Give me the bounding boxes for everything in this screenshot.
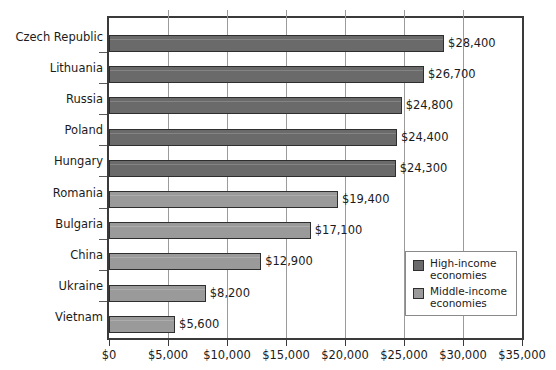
category-label-lithuania: Lithuania xyxy=(0,59,103,77)
category-label-czech-republic: Czech Republic xyxy=(0,28,103,46)
bar-highlight xyxy=(110,320,174,321)
x-axis-label: $35,000 xyxy=(498,348,546,362)
bar-highlight xyxy=(110,195,337,196)
bar-value-label: $8,200 xyxy=(210,284,250,302)
plot-area: $28,400$26,700$24,800$24,400$24,300$19,4… xyxy=(107,16,524,340)
category-label-bulgaria: Bulgaria xyxy=(0,215,103,233)
legend-swatch-middle-income-icon xyxy=(413,288,424,299)
bar-row: $24,400 xyxy=(109,122,522,154)
category-tick xyxy=(99,208,107,209)
category-tick xyxy=(99,114,107,115)
bar-russia xyxy=(109,97,402,114)
category-label-china: China xyxy=(0,246,103,264)
bar-value-label: $24,400 xyxy=(401,128,449,146)
x-axis-label: $25,000 xyxy=(380,348,428,362)
x-axis-tick xyxy=(463,340,464,346)
bar-row: $26,700 xyxy=(109,59,522,91)
bar-value-label: $19,400 xyxy=(342,190,390,208)
legend-label-high-income-line1: High-income xyxy=(430,257,496,269)
bar-row: $24,300 xyxy=(109,153,522,185)
x-axis-tick xyxy=(522,340,523,346)
bar-romania xyxy=(109,191,338,208)
category-tick xyxy=(99,239,107,240)
category-tick xyxy=(99,176,107,177)
bar-value-label: $24,300 xyxy=(400,159,448,177)
legend-swatch-high-income-icon xyxy=(413,260,424,271)
x-axis-tick xyxy=(404,340,405,346)
bar-value-label: $17,100 xyxy=(315,221,363,239)
legend-item-middle-income: Middle-income economies xyxy=(413,286,509,309)
bar-value-label: $12,900 xyxy=(265,252,313,270)
bar-poland xyxy=(109,129,397,146)
bar-highlight xyxy=(110,70,423,71)
x-axis-tick xyxy=(286,340,287,346)
chart-legend: High-income economies Middle-income econ… xyxy=(405,251,517,316)
category-tick xyxy=(99,301,107,302)
bar-highlight xyxy=(110,226,310,227)
bar-lithuania xyxy=(109,66,424,83)
bar-row: $28,400 xyxy=(109,28,522,60)
category-tick xyxy=(99,52,107,53)
bar-chart: Czech RepublicLithuaniaRussiaPolandHunga… xyxy=(0,0,556,370)
x-axis-label: $10,000 xyxy=(203,348,251,362)
bar-highlight xyxy=(110,289,205,290)
category-label-romania: Romania xyxy=(0,184,103,202)
legend-item-high-income: High-income economies xyxy=(413,258,509,281)
category-label-hungary: Hungary xyxy=(0,152,103,170)
legend-label-high-income-line2: economies xyxy=(430,269,487,281)
x-axis-label: $20,000 xyxy=(321,348,369,362)
bar-row: $24,800 xyxy=(109,90,522,122)
category-tick xyxy=(99,145,107,146)
legend-label-middle-income-line2: economies xyxy=(430,297,487,309)
bar-highlight xyxy=(110,164,395,165)
x-axis-label: $30,000 xyxy=(439,348,487,362)
x-axis-label: $15,000 xyxy=(262,348,310,362)
bar-highlight xyxy=(110,133,396,134)
x-axis-label: $5,000 xyxy=(148,348,188,362)
category-tick xyxy=(99,83,107,84)
bar-value-label: $24,800 xyxy=(406,96,454,114)
bar-highlight xyxy=(110,257,260,258)
bar-row: $17,100 xyxy=(109,215,522,247)
x-axis-tick xyxy=(109,340,110,346)
bar-value-label: $5,600 xyxy=(179,315,219,333)
bar-value-label: $26,700 xyxy=(428,65,476,83)
category-label-ukraine: Ukraine xyxy=(0,277,103,295)
legend-label-middle-income: Middle-income economies xyxy=(430,286,507,309)
legend-label-middle-income-line1: Middle-income xyxy=(430,285,507,297)
legend-label-high-income: High-income economies xyxy=(430,258,496,281)
bar-value-label: $28,400 xyxy=(448,34,496,52)
category-label-poland: Poland xyxy=(0,121,103,139)
bar-highlight xyxy=(110,101,401,102)
bar-highlight xyxy=(110,39,443,40)
bar-china xyxy=(109,253,261,270)
bar-ukraine xyxy=(109,285,206,302)
category-tick xyxy=(99,270,107,271)
category-label-russia: Russia xyxy=(0,90,103,108)
bar-bulgaria xyxy=(109,222,311,239)
bar-hungary xyxy=(109,160,396,177)
x-axis-tick xyxy=(168,340,169,346)
x-axis-label: $0 xyxy=(102,348,117,362)
bar-vietnam xyxy=(109,316,175,333)
category-label-vietnam: Vietnam xyxy=(0,308,103,326)
bar-row: $19,400 xyxy=(109,184,522,216)
x-axis-tick xyxy=(227,340,228,346)
bar-czech-republic xyxy=(109,35,444,52)
x-axis-tick xyxy=(345,340,346,346)
